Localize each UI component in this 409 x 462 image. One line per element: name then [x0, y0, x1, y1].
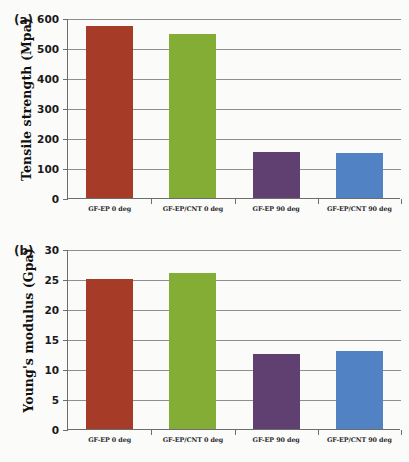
x-axis-tick: [318, 430, 319, 435]
figure-container: (a) Tensile strength (Mpa) 0100200300400…: [0, 0, 409, 462]
x-axis-tick: [151, 199, 152, 204]
y-axis-tick-label: 25: [19, 274, 59, 286]
x-axis-category-label: GF-EP/CNT 90 deg: [327, 205, 392, 213]
bar-gf-ep-cnt-90-deg: [336, 351, 383, 429]
y-axis-tick: [63, 109, 68, 110]
y-axis-tick: [63, 19, 68, 20]
x-axis-category-label: GF-EP/CNT 0 deg: [163, 205, 223, 213]
bar-gf-ep-cnt-90-deg: [336, 153, 383, 198]
y-axis-tick: [63, 49, 68, 50]
y-axis-tick: [63, 340, 68, 341]
x-axis-category-label: GF-EP/CNT 0 deg: [163, 436, 223, 444]
x-axis-category-label: GF-EP/CNT 90 deg: [327, 436, 392, 444]
y-axis-tick: [63, 370, 68, 371]
x-axis-tick: [151, 430, 152, 435]
x-axis-category-label: GF-EP 0 deg: [88, 205, 131, 213]
y-axis-tick-label: 20: [19, 304, 59, 316]
chart-panel-b: (b) Young's modulus (Gpa) 051015202530GF…: [0, 231, 409, 462]
x-axis-tick: [235, 430, 236, 435]
chart-panel-a: (a) Tensile strength (Mpa) 0100200300400…: [0, 0, 409, 231]
y-axis-tick: [63, 79, 68, 80]
x-axis-tick: [401, 199, 402, 204]
y-axis-tick-label: 600: [19, 13, 59, 25]
y-axis-tick-label: 300: [19, 103, 59, 115]
x-axis-category-label: GF-EP 0 deg: [88, 436, 131, 444]
y-axis-tick-label: 5: [19, 394, 59, 406]
bar-gf-ep-90-deg: [253, 354, 300, 429]
y-axis-tick-label: 0: [19, 193, 59, 205]
gridline: [68, 250, 401, 251]
y-axis-tick-label: 100: [19, 163, 59, 175]
gridline: [68, 19, 401, 20]
y-axis-tick-label: 200: [19, 133, 59, 145]
bar-gf-ep-0-deg: [86, 26, 133, 199]
y-axis-tick: [63, 169, 68, 170]
y-axis-tick: [63, 139, 68, 140]
x-axis-tick: [401, 430, 402, 435]
y-axis-tick-label: 15: [19, 334, 59, 346]
bar-gf-ep-cnt-0-deg: [169, 273, 216, 429]
bar-gf-ep-0-deg: [86, 279, 133, 429]
plot-area-b: 051015202530GF-EP 0 degGF-EP/CNT 0 degGF…: [67, 250, 400, 430]
y-axis-tick-label: 10: [19, 364, 59, 376]
y-axis-tick-label: 400: [19, 73, 59, 85]
x-axis-tick: [318, 199, 319, 204]
y-axis-tick: [63, 400, 68, 401]
x-axis-category-label: GF-EP 90 deg: [253, 205, 300, 213]
y-axis-tick-label: 0: [19, 424, 59, 436]
y-axis-tick: [63, 250, 68, 251]
y-axis-tick: [63, 430, 68, 431]
y-axis-tick: [63, 199, 68, 200]
x-axis-tick: [235, 199, 236, 204]
y-axis-tick-label: 30: [19, 244, 59, 256]
plot-area-a: 0100200300400500600GF-EP 0 degGF-EP/CNT …: [67, 19, 400, 199]
y-axis-tick: [63, 280, 68, 281]
bar-gf-ep-cnt-0-deg: [169, 34, 216, 198]
y-axis-tick: [63, 310, 68, 311]
bar-gf-ep-90-deg: [253, 152, 300, 198]
x-axis-category-label: GF-EP 90 deg: [253, 436, 300, 444]
y-axis-tick-label: 500: [19, 43, 59, 55]
